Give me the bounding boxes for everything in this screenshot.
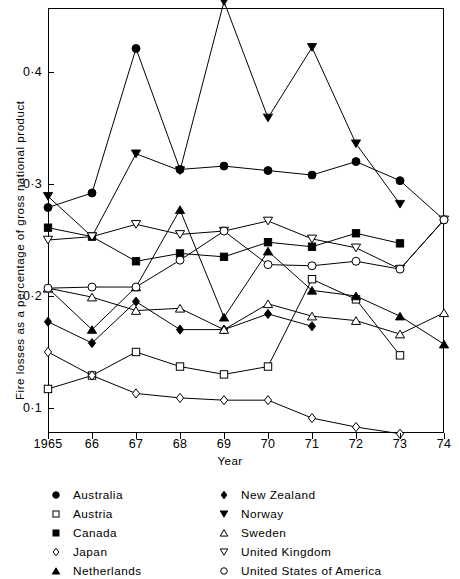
legend-item-label: Austria [73, 507, 113, 521]
plot-area [48, 8, 444, 433]
legend-item-canada[interactable]: Canada [48, 523, 216, 542]
y-tick-label: 0·2 [8, 289, 42, 303]
filled-triangle-down-icon [216, 507, 232, 521]
legend-item-norway[interactable]: Norway [216, 504, 448, 523]
filled-circle-icon [48, 488, 64, 502]
y-tick-mark [48, 296, 54, 297]
legend-item-japan[interactable]: Japan [48, 542, 216, 561]
legend-item-united-kingdom[interactable]: United Kingdom [216, 542, 448, 561]
legend-item-sweden[interactable]: Sweden [216, 523, 448, 542]
filled-triangle-up-icon [48, 564, 64, 578]
legend-item-united-states-of-america[interactable]: United States of America [216, 561, 448, 579]
x-tick-label: 74 [414, 437, 460, 451]
y-tick-mark [48, 184, 54, 185]
legend-item-label: Japan [73, 545, 107, 559]
y-tick-label: 0·4 [8, 65, 42, 79]
legend-item-label: Canada [73, 526, 117, 540]
legend-item-austria[interactable]: Austria [48, 504, 216, 523]
open-diamond-icon [48, 545, 64, 559]
legend-item-label: Norway [241, 507, 284, 521]
open-square-icon [48, 507, 64, 521]
open-triangle-down-icon [216, 545, 232, 559]
y-tick-mark [48, 408, 54, 409]
legend-item-australia[interactable]: Australia [48, 485, 216, 504]
y-tick-label: 0·1 [8, 401, 42, 415]
legend-item-label: United Kingdom [241, 545, 331, 559]
x-axis-title: Year [0, 455, 460, 467]
legend-item-label: Australia [73, 488, 123, 502]
y-axis-title: Fire losses as a percentage of gross nat… [14, 100, 26, 400]
open-circle-icon [216, 564, 232, 578]
filled-square-icon [48, 526, 64, 540]
legend-item-new-zealand[interactable]: New Zealand [216, 485, 448, 504]
legend-item-label: New Zealand [241, 488, 315, 502]
chart-legend: AustraliaAustriaCanadaJapanNetherlandsNe… [48, 485, 448, 579]
legend-item-label: Sweden [241, 526, 286, 540]
open-triangle-up-icon [216, 526, 232, 540]
y-tick-mark [48, 72, 54, 73]
y-tick-label: 0·3 [8, 177, 42, 191]
legend-item-label: United States of America [241, 564, 382, 578]
legend-item-label: Netherlands [73, 564, 142, 578]
filled-diamond-icon [216, 488, 232, 502]
legend-item-netherlands[interactable]: Netherlands [48, 561, 216, 579]
